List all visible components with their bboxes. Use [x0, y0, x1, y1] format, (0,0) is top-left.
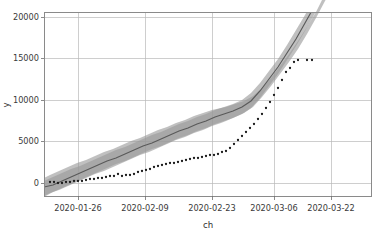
- data-point: [237, 139, 239, 141]
- data-point: [49, 181, 51, 183]
- data-point: [149, 168, 151, 170]
- data-point: [221, 151, 223, 153]
- data-point: [289, 67, 291, 69]
- data-point: [269, 101, 271, 103]
- data-point: [145, 169, 147, 171]
- data-point: [205, 155, 207, 157]
- data-point: [77, 180, 79, 182]
- data-point: [109, 175, 111, 177]
- data-point: [137, 171, 139, 173]
- data-point: [53, 181, 55, 183]
- data-point: [101, 177, 103, 179]
- data-point: [229, 147, 231, 149]
- y-tick-label-5000: 5000: [18, 136, 39, 146]
- data-point: [81, 180, 83, 182]
- y-tick-label-15000: 15000: [13, 53, 39, 63]
- data-point: [161, 164, 163, 166]
- data-point: [173, 162, 175, 164]
- x-tick-label-2: 2020-02-09: [121, 203, 169, 213]
- data-point: [209, 154, 211, 156]
- data-point: [241, 135, 243, 137]
- data-point: [261, 113, 263, 115]
- data-point: [253, 123, 255, 125]
- y-tick-label-10000: 10000: [13, 95, 39, 105]
- data-point: [157, 165, 159, 167]
- data-point: [213, 154, 215, 156]
- x-axis-title: ch: [203, 220, 213, 230]
- data-point: [177, 161, 179, 163]
- y-tick-label-20000: 20000: [13, 12, 39, 22]
- data-point: [273, 94, 275, 96]
- data-point: [169, 162, 171, 164]
- data-point: [129, 174, 131, 176]
- data-point: [189, 158, 191, 160]
- data-point-outlier: [311, 59, 313, 61]
- data-point-outlier: [297, 59, 299, 61]
- data-point-outlier: [306, 59, 308, 61]
- x-tick-label-4: 2020-03-06: [250, 203, 298, 213]
- data-point: [89, 178, 91, 180]
- data-point: [185, 159, 187, 161]
- chart-figure: 20000 15000 10000 5000 0 2020-01-26 2020…: [0, 0, 385, 237]
- data-point: [57, 182, 59, 184]
- data-point: [249, 127, 251, 129]
- data-point: [117, 173, 119, 175]
- data-point: [97, 177, 99, 179]
- data-point: [233, 143, 235, 145]
- data-point: [265, 107, 267, 109]
- data-point: [121, 175, 123, 177]
- data-point: [217, 153, 219, 155]
- data-point: [225, 150, 227, 152]
- data-point: [257, 118, 259, 120]
- data-point: [153, 166, 155, 168]
- data-point: [85, 179, 87, 181]
- x-tick-label-5: 2020-03-22: [307, 203, 355, 213]
- data-point: [141, 170, 143, 172]
- x-tick-label-1: 2020-01-26: [54, 203, 102, 213]
- data-point: [93, 178, 95, 180]
- data-point: [125, 174, 127, 176]
- data-point: [61, 182, 63, 184]
- data-point: [65, 181, 67, 183]
- data-point-outlier: [293, 61, 295, 63]
- x-tick-label-3: 2020-02-23: [188, 203, 236, 213]
- data-point: [285, 71, 287, 73]
- data-point: [281, 79, 283, 81]
- forecast-chart: 20000 15000 10000 5000 0 2020-01-26 2020…: [0, 0, 385, 237]
- data-point: [165, 163, 167, 165]
- data-point: [73, 180, 75, 182]
- data-point: [201, 156, 203, 158]
- data-point: [193, 157, 195, 159]
- y-axis-title: y: [1, 102, 11, 107]
- data-point: [277, 87, 279, 89]
- data-point: [245, 131, 247, 133]
- data-point: [133, 173, 135, 175]
- data-point: [105, 176, 107, 178]
- y-tick-label-0: 0: [34, 178, 39, 188]
- data-point: [113, 175, 115, 177]
- data-point: [181, 160, 183, 162]
- data-point: [197, 157, 199, 159]
- x-axis-tick-labels: 2020-01-26 2020-02-09 2020-02-23 2020-03…: [54, 203, 355, 213]
- data-point: [69, 181, 71, 183]
